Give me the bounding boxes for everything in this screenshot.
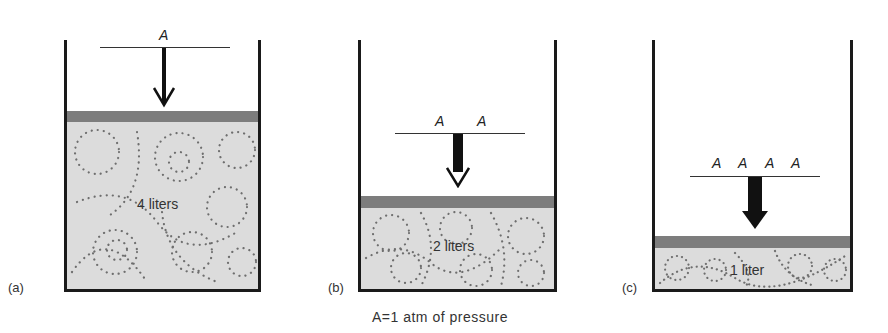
weight-label: A <box>791 155 800 171</box>
cylinder-floor <box>64 289 261 292</box>
down-arrow-icon <box>741 177 769 231</box>
panel-label: (b) <box>328 280 344 295</box>
volume-label: 1 liter <box>730 262 764 278</box>
weight-label: A <box>435 113 444 129</box>
down-arrow-icon <box>152 48 176 108</box>
figure-caption: A=1 atm of pressure <box>372 309 508 325</box>
volume-label: 2 liters <box>433 238 474 254</box>
weight-label: A <box>712 155 721 171</box>
weight-label: A <box>477 113 486 129</box>
weight-label: A <box>765 155 774 171</box>
weight-label: A <box>159 27 168 43</box>
cylinder-floor <box>652 289 853 292</box>
cylinder-right-wall <box>554 40 557 292</box>
cylinder-right-wall <box>258 40 261 292</box>
piston <box>655 236 850 248</box>
cylinder-floor <box>358 289 557 292</box>
panel-label: (a) <box>8 280 24 295</box>
piston <box>361 196 554 208</box>
down-arrow-icon <box>446 134 470 188</box>
weight-label: A <box>738 155 747 171</box>
volume-label: 4 liters <box>137 196 178 212</box>
piston <box>67 111 258 122</box>
cylinder-right-wall <box>850 40 853 292</box>
panel-label: (c) <box>622 280 637 295</box>
